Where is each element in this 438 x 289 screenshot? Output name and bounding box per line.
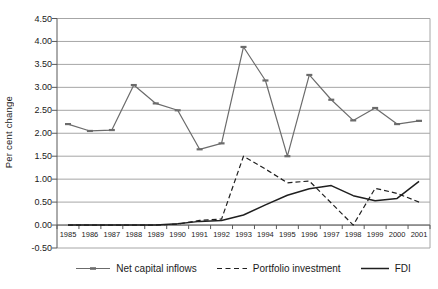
x-tick-label: 1986 bbox=[79, 230, 101, 239]
legend-label: Portfolio investment bbox=[253, 263, 341, 274]
legend-label: Net capital inflows bbox=[116, 263, 197, 274]
x-tick-label: 1991 bbox=[189, 230, 211, 239]
x-tick-label: 1992 bbox=[211, 230, 233, 239]
x-tick-label: 1993 bbox=[233, 230, 255, 239]
solid-line-icon bbox=[361, 264, 389, 273]
legend: Net capital inflows Portfolio investment… bbox=[57, 260, 430, 276]
legend-item-net-capital-inflows: Net capital inflows bbox=[76, 263, 197, 274]
x-tick-label: 1995 bbox=[276, 230, 298, 239]
x-tick-label: 1994 bbox=[254, 230, 276, 239]
y-tick-label: 4.50 bbox=[34, 14, 52, 24]
x-tick-label: 1988 bbox=[123, 230, 145, 239]
legend-item-portfolio-investment: Portfolio investment bbox=[217, 263, 341, 274]
y-tick-label: 0.50 bbox=[34, 197, 52, 207]
x-tick-label: 2000 bbox=[386, 230, 408, 239]
plot-area bbox=[0, 0, 438, 258]
x-tick-label: 1987 bbox=[101, 230, 123, 239]
y-tick-label: 2.00 bbox=[34, 128, 52, 138]
dashed-line-icon bbox=[217, 264, 247, 273]
x-tick-label: 1998 bbox=[342, 230, 364, 239]
y-tick-label: -0.50 bbox=[31, 243, 52, 253]
x-tick-label: 1990 bbox=[167, 230, 189, 239]
x-tick-label: 2001 bbox=[408, 230, 430, 239]
y-tick-label: 1.50 bbox=[34, 151, 52, 161]
x-tick-label: 1996 bbox=[298, 230, 320, 239]
y-tick-label: 3.50 bbox=[34, 59, 52, 69]
y-tick-label: 3.00 bbox=[34, 82, 52, 92]
y-tick-label: 4.00 bbox=[34, 36, 52, 46]
series-line-2 bbox=[68, 181, 419, 225]
net-capital-inflows-line-marker-icon bbox=[76, 264, 110, 273]
legend-item-fdi: FDI bbox=[361, 263, 411, 274]
line-chart-figure: Per cent change 4.504.003.503.002.502.00… bbox=[0, 0, 438, 289]
x-tick-label: 1999 bbox=[364, 230, 386, 239]
series-line-0 bbox=[68, 47, 419, 156]
legend-label: FDI bbox=[395, 263, 411, 274]
x-axis-labels: 1985198619871988198919901991199219931994… bbox=[0, 230, 438, 240]
y-tick-label: 1.00 bbox=[34, 174, 52, 184]
x-tick-label: 1985 bbox=[57, 230, 79, 239]
x-tick-label: 1997 bbox=[320, 230, 342, 239]
x-tick-label: 1989 bbox=[145, 230, 167, 239]
y-axis-labels: 4.504.003.503.002.502.001.501.000.500.00… bbox=[0, 0, 52, 258]
y-tick-label: 0.00 bbox=[34, 220, 52, 230]
y-tick-label: 2.50 bbox=[34, 105, 52, 115]
